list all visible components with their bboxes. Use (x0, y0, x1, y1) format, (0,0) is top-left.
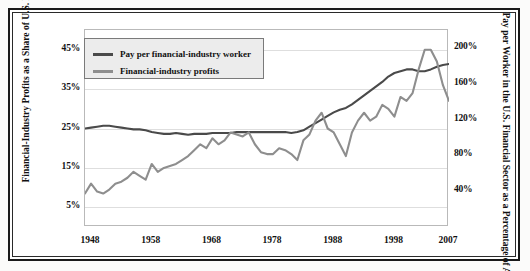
y-axis-right-tick-label: 40% (454, 184, 472, 194)
y-axis-left-tick-label: 45% (50, 43, 80, 53)
legend-item: Pay per financial-industry worker (93, 47, 251, 61)
y-axis-right-tick-label: 160% (454, 77, 477, 87)
x-axis-tick-label: 1998 (384, 235, 403, 245)
y-axis-left-tick-label: 15% (50, 161, 80, 171)
x-axis-tick-label: 1988 (323, 235, 342, 245)
y-axis-right-title: Pay per Worker in the U.S. Financial Sec… (500, 13, 511, 183)
x-axis-tick-label: 1958 (141, 235, 160, 245)
legend-color-swatch (93, 53, 113, 56)
chart-canvas: 5%15%25%35%45% 40%80%120%160%200% 194819… (0, 0, 530, 271)
legend-item-label: Pay per financial-industry worker (120, 49, 251, 59)
y-axis-right-tick-label: 80% (454, 148, 472, 158)
x-axis-tick-label: 1948 (81, 235, 100, 245)
legend-color-swatch (93, 70, 113, 73)
y-axis-left-tick-label: 25% (50, 122, 80, 132)
y-axis-left-title: Financial-Industry Profits as a Share of… (21, 13, 32, 183)
legend-item-label: Financial-industry profits (120, 66, 219, 76)
x-axis-tick-label: 1978 (263, 235, 282, 245)
figure-frame: 5%15%25%35%45% 40%80%120%160%200% 194819… (0, 0, 530, 271)
x-axis-tick-label: 1968 (202, 235, 221, 245)
y-axis-left-tick-label: 35% (50, 82, 80, 92)
y-axis-right-tick-label: 120% (454, 113, 477, 123)
chart-legend: Pay per financial-industry workerFinanci… (84, 38, 264, 79)
x-axis-tick-label: 2007 (439, 235, 458, 245)
legend-item: Financial-industry profits (93, 64, 219, 78)
y-axis-left-tick-label: 5% (50, 200, 80, 210)
y-axis-right-tick-label: 200% (454, 41, 477, 51)
